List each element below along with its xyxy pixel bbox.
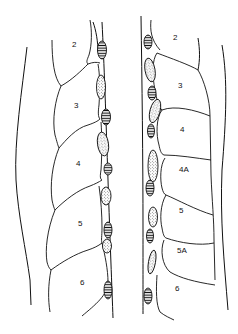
- striped-oval: [148, 124, 155, 138]
- right-inner-line: [151, 20, 160, 50]
- left-seg2-right-edge: [87, 20, 91, 64]
- left-segment-6: [49, 270, 51, 312]
- left-segment-2: [61, 62, 100, 86]
- left-inner-line-top: [52, 40, 61, 86]
- right-segment-column-edge: [198, 70, 215, 280]
- stippled-oval: [97, 75, 106, 99]
- stippled-oval: [103, 239, 112, 253]
- segment-label-2: 2: [173, 33, 178, 42]
- right-segment-4-4A: [164, 155, 211, 160]
- left-outer-wall: [16, 47, 31, 305]
- segment-label-2: 2: [72, 40, 77, 49]
- segment-label-4: 4: [180, 125, 185, 134]
- right-segment-6: [156, 275, 174, 320]
- right-outer-wall-1: [198, 38, 200, 70]
- diagram-canvas: 2 3 4 5 6: [0, 0, 238, 334]
- right-column: 2 3 4 4A 5 5A 6: [141, 16, 228, 320]
- right-segment-4A: [161, 158, 166, 195]
- segment-label-3: 3: [178, 81, 183, 90]
- stippled-oval: [143, 57, 157, 82]
- right-segment-2-3: [157, 53, 198, 70]
- right-central-wall: [141, 16, 143, 314]
- segment-diagram: 2 3 4 5 6: [0, 0, 238, 334]
- stippled-oval: [148, 150, 158, 182]
- segment-label-3: 3: [74, 101, 79, 110]
- striped-oval: [148, 86, 156, 100]
- left-segment-5: [46, 210, 102, 270]
- striped-oval: [104, 222, 112, 238]
- right-outer-wall-2: [221, 45, 228, 310]
- striped-oval: [147, 229, 154, 243]
- striped-oval: [104, 163, 112, 175]
- left-segment-4: [51, 148, 102, 210]
- right-segment-4A-5: [166, 195, 213, 215]
- right-segment-5-5A: [166, 238, 214, 244]
- striped-oval: [146, 180, 154, 196]
- segment-label-4: 4: [76, 159, 81, 168]
- left-column: 2 3 4 5 6: [16, 20, 113, 318]
- segment-label-4A: 4A: [179, 165, 189, 174]
- right-segment-5: [161, 195, 166, 238]
- segment-label-5: 5: [78, 219, 83, 228]
- segment-label-5: 5: [179, 206, 184, 215]
- striped-oval: [144, 288, 152, 304]
- stippled-oval: [149, 207, 158, 227]
- right-segment-5A: [162, 240, 215, 285]
- stippled-oval: [96, 131, 110, 156]
- stippled-oval: [147, 98, 163, 124]
- segment-label-5A: 5A: [177, 246, 187, 255]
- stippled-oval: [101, 187, 111, 205]
- striped-oval: [144, 35, 152, 49]
- striped-oval: [102, 109, 111, 125]
- segment-label-6: 6: [80, 278, 85, 287]
- right-segment-3-4: [162, 108, 210, 116]
- left-seg6-right-edge: [82, 243, 108, 316]
- striped-oval: [98, 41, 107, 59]
- stippled-oval: [146, 250, 157, 275]
- striped-oval: [104, 281, 112, 299]
- segment-label-6: 6: [175, 284, 180, 293]
- left-segment-3: [54, 86, 100, 148]
